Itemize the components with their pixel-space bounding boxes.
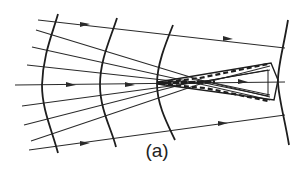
figure-caption: (a) xyxy=(0,140,300,162)
arrow-icon xyxy=(125,82,135,87)
ray-7 xyxy=(24,80,270,125)
ray-8 xyxy=(31,84,200,141)
caustic-thick xyxy=(157,82,215,83)
arrow-icon xyxy=(238,79,248,84)
wavefront-2 xyxy=(100,18,117,147)
ray-top xyxy=(38,20,285,48)
rays xyxy=(15,20,285,150)
arrow-icon xyxy=(223,36,233,41)
